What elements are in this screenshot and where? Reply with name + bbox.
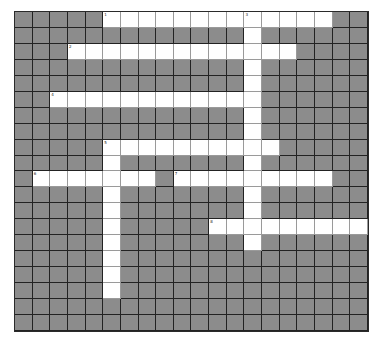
open-cell[interactable]: [191, 12, 209, 28]
open-cell[interactable]: [333, 219, 351, 235]
open-cell[interactable]: [262, 12, 280, 28]
open-cell[interactable]: [156, 44, 174, 60]
open-cell[interactable]: [139, 44, 157, 60]
open-cell[interactable]: [121, 12, 139, 28]
open-cell[interactable]: [244, 44, 262, 60]
open-cell[interactable]: [121, 140, 139, 156]
open-cell[interactable]: [103, 203, 121, 219]
open-cell[interactable]: [86, 44, 104, 60]
open-cell[interactable]: [280, 219, 298, 235]
open-cell[interactable]: [156, 92, 174, 108]
open-cell[interactable]: [227, 92, 245, 108]
open-cell[interactable]: [209, 12, 227, 28]
open-cell[interactable]: [297, 12, 315, 28]
open-cell[interactable]: [209, 140, 227, 156]
open-cell[interactable]: [139, 171, 157, 187]
open-cell[interactable]: [244, 187, 262, 203]
open-cell[interactable]: [315, 219, 333, 235]
block-cell: [33, 315, 51, 331]
block-cell: [156, 283, 174, 299]
block-cell: [209, 251, 227, 267]
open-cell[interactable]: [244, 108, 262, 124]
block-cell: [121, 267, 139, 283]
open-cell[interactable]: [86, 171, 104, 187]
open-cell[interactable]: [244, 124, 262, 140]
open-cell[interactable]: [227, 219, 245, 235]
open-cell[interactable]: [280, 171, 298, 187]
open-cell[interactable]: [262, 44, 280, 60]
open-cell[interactable]: [174, 12, 192, 28]
open-cell[interactable]: [86, 92, 104, 108]
open-cell[interactable]: [315, 12, 333, 28]
block-cell: [191, 124, 209, 140]
block-cell: [33, 60, 51, 76]
open-cell[interactable]: [227, 140, 245, 156]
open-cell[interactable]: [262, 171, 280, 187]
open-cell[interactable]: 4: [50, 92, 68, 108]
open-cell[interactable]: [262, 219, 280, 235]
open-cell[interactable]: [139, 140, 157, 156]
open-cell[interactable]: [121, 92, 139, 108]
open-cell[interactable]: [227, 12, 245, 28]
block-cell: [86, 156, 104, 172]
open-cell[interactable]: [103, 187, 121, 203]
open-cell[interactable]: [103, 283, 121, 299]
open-cell[interactable]: [121, 171, 139, 187]
open-cell[interactable]: [121, 44, 139, 60]
open-cell[interactable]: [315, 171, 333, 187]
open-cell[interactable]: [139, 12, 157, 28]
open-cell[interactable]: [280, 44, 298, 60]
open-cell[interactable]: 8: [209, 219, 227, 235]
block-cell: [121, 187, 139, 203]
open-cell[interactable]: [280, 12, 298, 28]
open-cell[interactable]: [156, 12, 174, 28]
open-cell[interactable]: [103, 156, 121, 172]
open-cell[interactable]: [191, 140, 209, 156]
open-cell[interactable]: [191, 92, 209, 108]
open-cell[interactable]: [103, 235, 121, 251]
open-cell[interactable]: [174, 92, 192, 108]
open-cell[interactable]: [244, 28, 262, 44]
open-cell[interactable]: [191, 171, 209, 187]
open-cell[interactable]: [350, 219, 368, 235]
open-cell[interactable]: [227, 171, 245, 187]
open-cell[interactable]: [244, 235, 262, 251]
open-cell[interactable]: [244, 203, 262, 219]
open-cell[interactable]: [191, 44, 209, 60]
block-cell: [262, 108, 280, 124]
open-cell[interactable]: [174, 44, 192, 60]
open-cell[interactable]: 1: [103, 12, 121, 28]
open-cell[interactable]: [297, 219, 315, 235]
open-cell[interactable]: [68, 171, 86, 187]
open-cell[interactable]: [103, 267, 121, 283]
open-cell[interactable]: [209, 44, 227, 60]
open-cell[interactable]: [244, 92, 262, 108]
open-cell[interactable]: [244, 219, 262, 235]
open-cell[interactable]: [244, 60, 262, 76]
open-cell[interactable]: [68, 92, 86, 108]
open-cell[interactable]: [174, 140, 192, 156]
open-cell[interactable]: 7: [174, 171, 192, 187]
open-cell[interactable]: 2: [68, 44, 86, 60]
open-cell[interactable]: [297, 171, 315, 187]
open-cell[interactable]: [139, 92, 157, 108]
open-cell[interactable]: [50, 171, 68, 187]
open-cell[interactable]: [103, 171, 121, 187]
open-cell[interactable]: [103, 251, 121, 267]
open-cell[interactable]: [262, 140, 280, 156]
open-cell[interactable]: [244, 140, 262, 156]
open-cell[interactable]: [244, 156, 262, 172]
open-cell[interactable]: [209, 171, 227, 187]
open-cell[interactable]: [227, 44, 245, 60]
open-cell[interactable]: [244, 76, 262, 92]
open-cell[interactable]: [244, 171, 262, 187]
block-cell: [50, 28, 68, 44]
open-cell[interactable]: [156, 140, 174, 156]
open-cell[interactable]: [103, 92, 121, 108]
open-cell[interactable]: [103, 219, 121, 235]
open-cell[interactable]: [103, 44, 121, 60]
open-cell[interactable]: 5: [103, 140, 121, 156]
open-cell[interactable]: [209, 92, 227, 108]
open-cell[interactable]: 3: [244, 12, 262, 28]
open-cell[interactable]: 6: [33, 171, 51, 187]
